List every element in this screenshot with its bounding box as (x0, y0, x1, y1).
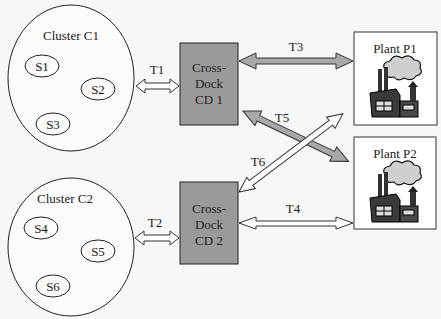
svg-text:T1: T1 (150, 62, 164, 77)
supplier-s3: S3 (46, 117, 60, 132)
transport-t4-arrow: T4 (239, 201, 353, 229)
plant-p2: Plant P2 (354, 137, 436, 229)
svg-text:T3: T3 (289, 39, 303, 54)
cluster-c2: Cluster C2 S4 S5 S6 (8, 178, 134, 316)
svg-text:T4: T4 (286, 201, 301, 216)
svg-text:T2: T2 (148, 215, 162, 230)
supplier-s6: S6 (46, 279, 60, 294)
svg-text:Cross-: Cross- (192, 60, 226, 75)
supplier-s1: S1 (35, 59, 49, 74)
crossdock-cd2: Cross- Dock CD 2 (180, 182, 238, 264)
svg-text:Plant P1: Plant P1 (373, 41, 417, 56)
svg-text:Dock: Dock (195, 76, 224, 91)
supplier-s4: S4 (34, 221, 48, 236)
transport-t1-arrow: T1 (136, 62, 179, 93)
transport-t2-arrow: T2 (135, 215, 179, 245)
transport-t6-label: T6 (251, 154, 266, 169)
supplier-s2: S2 (91, 82, 105, 97)
cluster-c1: Cluster C1 S1 S2 S3 (8, 5, 134, 151)
svg-text:Cross-: Cross- (192, 201, 226, 216)
crossdock-cd1: Cross- Dock CD 1 (180, 43, 238, 125)
svg-text:Dock: Dock (195, 217, 224, 232)
transport-t3-arrow: T3 (239, 39, 353, 69)
svg-text:CD 1: CD 1 (195, 92, 223, 107)
supplier-s5: S5 (91, 244, 105, 259)
plant-p1: Plant P1 (354, 32, 437, 125)
cluster-c2-label: Cluster C2 (37, 191, 93, 206)
svg-text:Plant P2: Plant P2 (373, 146, 417, 161)
svg-text:CD 2: CD 2 (195, 233, 223, 248)
transport-t5-label: T5 (275, 110, 289, 125)
cluster-c1-label: Cluster C1 (43, 28, 99, 43)
